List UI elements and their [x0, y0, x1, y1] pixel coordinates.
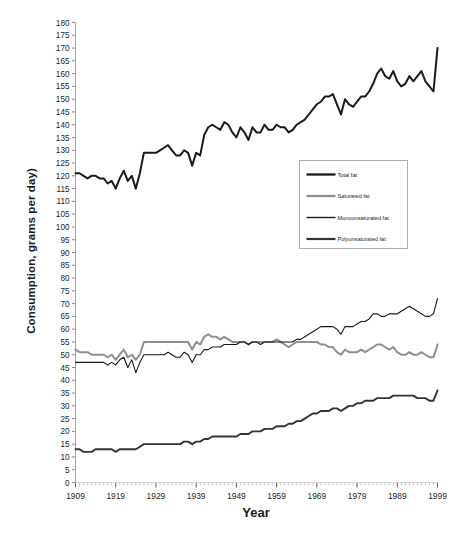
y-axis-tick-label: 80 — [60, 274, 70, 283]
x-axis-tick-label: 1999 — [428, 491, 447, 501]
x-axis-tick-label: 1949 — [227, 491, 246, 501]
y-axis-tick-label: 0 — [65, 479, 70, 488]
y-axis-tick-group: 1801751701651601551501451401351301251201… — [56, 19, 76, 488]
y-axis-tick-label: 105 — [56, 210, 70, 219]
y-axis-tick-label: 65 — [60, 312, 70, 321]
axis-lines — [76, 23, 438, 483]
y-axis-tick-label: 125 — [56, 159, 70, 168]
y-axis-tick-label: 145 — [56, 108, 70, 117]
legend-label: Polyunsaturated fat — [338, 236, 387, 242]
x-axis-tick-label: 1919 — [106, 491, 125, 501]
x-axis-tick-label: 1909 — [66, 491, 85, 501]
y-axis-tick-label: 30 — [60, 402, 70, 411]
x-axis-label: Year — [75, 505, 437, 520]
y-axis-tick-label: 110 — [56, 197, 69, 206]
series-line-saturated-fat — [76, 334, 438, 360]
y-axis-label: Consumption, grams per day) — [25, 136, 37, 366]
y-axis-tick-label: 15 — [60, 440, 70, 449]
y-axis-tick-label: 175 — [56, 31, 70, 40]
y-axis-tick-label: 75 — [60, 287, 70, 296]
y-axis-tick-label: 55 — [60, 338, 70, 347]
x-axis-tick-group: 1909191919291939194919591969197919891999 — [66, 483, 447, 501]
y-axis-tick-label: 40 — [60, 376, 70, 385]
x-axis-tick-label: 1929 — [147, 491, 166, 501]
y-axis-tick-label: 135 — [56, 134, 70, 143]
y-axis-tick-label: 100 — [56, 223, 70, 232]
y-axis-tick-label: 10 — [60, 453, 70, 462]
x-axis-tick-label: 1939 — [187, 491, 206, 501]
y-axis-tick-label: 20 — [60, 427, 70, 436]
y-axis-tick-label: 140 — [56, 121, 70, 130]
chart-legend: Total fatSaturated fatMonounsaturated fa… — [300, 161, 408, 249]
y-axis-tick-label: 130 — [56, 146, 70, 155]
x-axis-tick-label: 1979 — [348, 491, 367, 501]
y-axis-tick-label: 45 — [60, 364, 70, 373]
line-chart-plot: 1801751701651601551501451401351301251201… — [0, 0, 454, 538]
series-line-polyunsaturated-fat — [76, 391, 438, 452]
legend-label: Saturated fat — [338, 193, 370, 199]
y-axis-tick-label: 5 — [65, 466, 70, 475]
y-axis-tick-label: 90 — [60, 249, 70, 258]
y-axis-tick-label: 150 — [56, 95, 70, 104]
y-axis-tick-label: 170 — [56, 44, 70, 53]
y-axis-tick-label: 165 — [56, 57, 70, 66]
y-axis-tick-label: 50 — [60, 351, 70, 360]
legend-label: Monounsaturated fat — [338, 215, 390, 221]
y-axis-tick-label: 35 — [60, 389, 70, 398]
series-line-monounsaturated-fat — [76, 299, 438, 373]
y-axis-tick-label: 160 — [56, 70, 70, 79]
y-axis-tick-label: 70 — [60, 300, 70, 309]
y-axis-tick-label: 60 — [60, 325, 70, 334]
y-axis-tick-label: 180 — [56, 19, 70, 28]
x-axis-tick-label: 1959 — [267, 491, 286, 501]
y-axis-tick-label: 120 — [56, 172, 70, 181]
legend-label: Total fat — [338, 172, 358, 178]
y-axis-tick-label: 25 — [60, 415, 70, 424]
y-axis-tick-label: 155 — [56, 82, 70, 91]
y-axis-tick-label: 95 — [60, 236, 70, 245]
x-axis-tick-label: 1989 — [388, 491, 407, 501]
x-axis-tick-label: 1969 — [308, 491, 327, 501]
y-axis-tick-label: 85 — [60, 261, 70, 270]
chart-container: Consumption, grams per day) Year 1801751… — [0, 0, 454, 538]
data-series-group — [76, 48, 438, 452]
y-axis-tick-label: 115 — [56, 185, 69, 194]
